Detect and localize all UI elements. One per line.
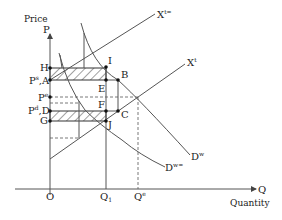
label-h: H [40,62,49,73]
label-i: I [108,55,112,66]
y-axis-symbol: P [43,24,50,35]
x-axis-title: Quantity [230,198,270,208]
origin-label: O [46,191,54,202]
label-e: E [98,83,105,94]
label-q1: Q1 [100,191,112,203]
label-supply: Xt [187,56,197,68]
label-j: J [107,119,112,130]
economic-diagram: Price P Q Quantity O H Ps,A Pe Pd,D G I … [0,0,282,220]
lower-hatched-area [50,111,106,121]
label-ps-a: Ps,A [29,74,50,86]
label-pe: Pe [38,91,49,103]
x-axis-symbol: Q [258,184,266,195]
label-c: C [121,109,129,120]
label-g: G [40,115,48,126]
label-b: B [121,69,128,80]
label-qe: Qe [134,190,146,202]
label-supply-shifted: Xt= [157,8,172,20]
label-demand: Dw [191,150,205,162]
upper-hatched-area [50,68,106,80]
y-axis-title: Price [24,14,48,24]
label-f: F [98,99,105,110]
label-demand-shifted: Dw= [165,161,183,173]
